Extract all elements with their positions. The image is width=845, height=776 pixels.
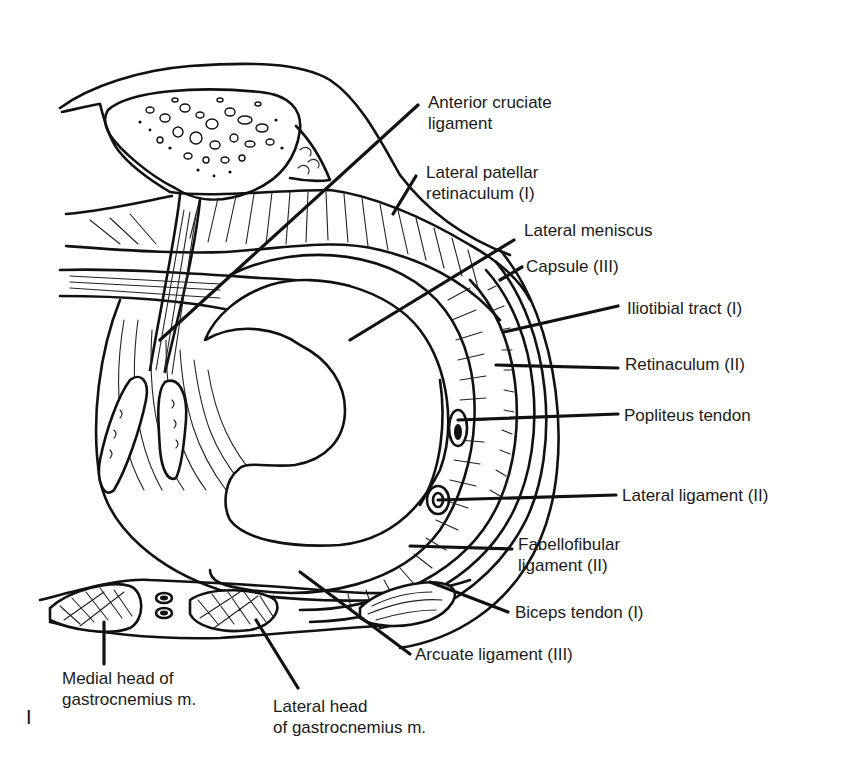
leader-iliotibial-tract [504, 306, 618, 332]
label-lateral-patellar-retinaculum: Lateral patellar retinaculum (I) [426, 162, 538, 204]
label-arcuate-ligament: Arcuate ligament (III) [415, 644, 573, 665]
label-lateral-meniscus: Lateral meniscus [524, 220, 653, 241]
leader-retinaculum [496, 365, 618, 368]
label-medial-head-gastrocnemius: Medial head of gastrocnemius m. [62, 668, 196, 710]
leader-lateral-head [256, 620, 298, 688]
label-fabellofibular-ligament: Fabellofibular ligament (II) [518, 534, 620, 576]
label-capsule: Capsule (III) [526, 256, 619, 277]
leader-lateral-ligament [438, 495, 616, 500]
leader-lateral-meniscus [350, 240, 514, 340]
label-anterior-cruciate-ligament: Anterior cruciate ligament [428, 92, 552, 134]
label-biceps-tendon: Biceps tendon (I) [515, 602, 644, 623]
label-retinaculum: Retinaculum (II) [625, 354, 745, 375]
label-lateral-ligament: Lateral ligament (II) [622, 485, 768, 506]
figure-number: I [26, 706, 32, 729]
label-lateral-head-gastrocnemius: Lateral head of gastrocnemius m. [273, 696, 426, 738]
label-iliotibial-tract: Iliotibial tract (I) [627, 298, 742, 319]
lateral-meniscus-condyle [205, 250, 559, 648]
leader-popliteus-tendon [458, 414, 618, 420]
label-popliteus-tendon: Popliteus tendon [624, 405, 751, 426]
